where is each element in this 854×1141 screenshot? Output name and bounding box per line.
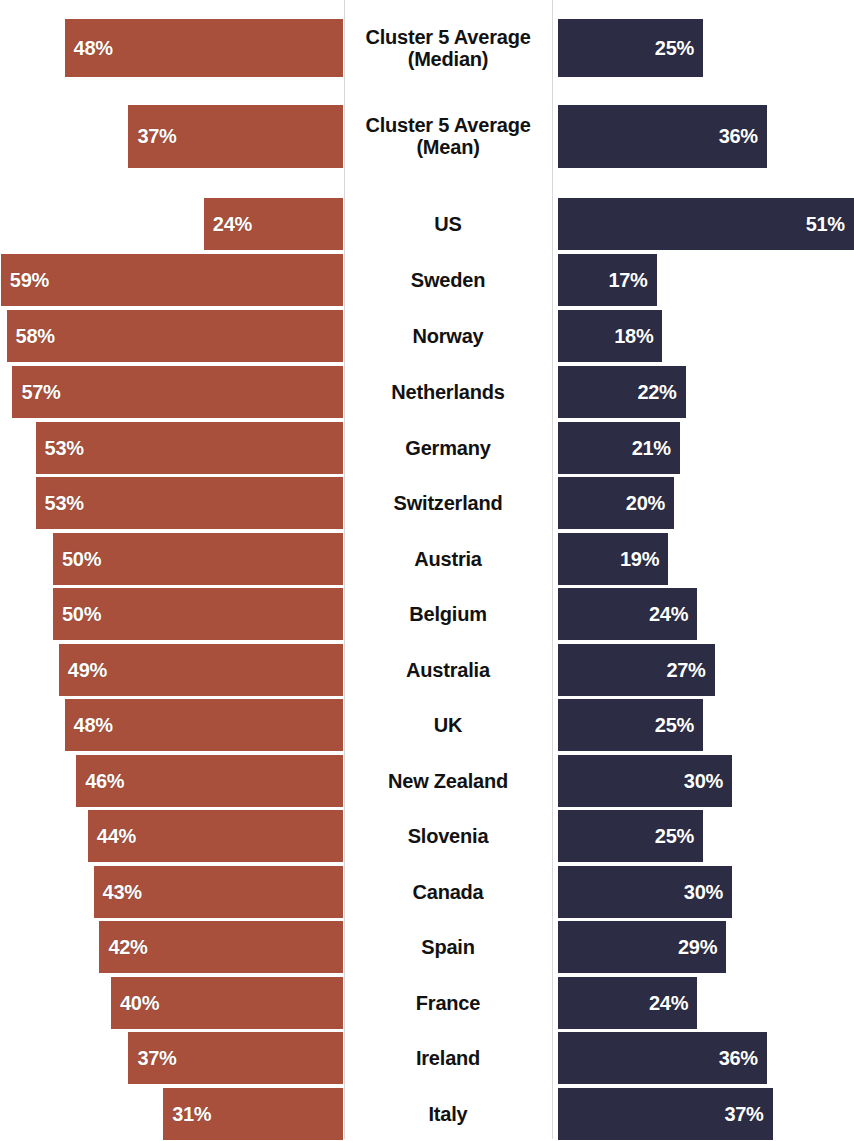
left-bar: 37% [128,105,343,168]
right-bar: 30% [558,755,732,807]
chart-row: 59%Sweden17% [0,252,851,307]
left-bar: 48% [65,699,343,751]
chart-row: 58%Norway18% [0,308,851,363]
right-bar: 18% [558,310,662,362]
right-bar-value: 17% [608,268,647,291]
left-bar-value: 48% [74,713,113,736]
category-label: Slovenia [345,824,551,846]
right-bar: 27% [558,644,715,696]
left-bar: 40% [111,977,343,1029]
left-bar-value: 37% [137,1046,176,1069]
category-label: US [345,212,551,234]
left-bar-value: 40% [120,991,159,1014]
right-bar: 25% [558,699,703,751]
left-bar: 44% [88,810,343,862]
category-label: Austria [345,547,551,569]
left-bar: 48% [65,19,343,77]
right-bar: 29% [558,921,726,973]
right-bar: 24% [558,977,697,1029]
chart-row: 40%France24% [0,975,851,1030]
right-bar-value: 24% [649,602,688,625]
right-bar: 19% [558,533,668,585]
category-label: Sweden [345,268,551,290]
chart-row: 46%New Zealand30% [0,753,851,808]
left-bar-value: 42% [108,935,147,958]
left-bar: 31% [163,1088,343,1140]
left-bar: 46% [76,755,343,807]
right-bar: 25% [558,19,703,77]
left-bar-value: 46% [85,769,124,792]
right-bar: 37% [558,1088,773,1140]
right-bar: 36% [558,105,767,168]
left-bar-value: 58% [16,324,55,347]
left-bar-value: 53% [45,491,84,514]
chart-row: 24%US51% [0,196,851,251]
right-bar: 25% [558,810,703,862]
right-bar-value: 36% [719,1046,758,1069]
right-bar: 30% [558,866,732,918]
chart-row: 53%Switzerland20% [0,475,851,530]
right-bar-value: 18% [614,324,653,347]
category-label: Switzerland [345,491,551,513]
right-bar-value: 25% [655,713,694,736]
right-bar-value: 30% [684,769,723,792]
left-bar-value: 31% [172,1102,211,1125]
category-label: Spain [345,935,551,957]
left-bar-value: 48% [74,37,113,60]
chart-row: 37%Cluster 5 Average (Mean)36% [0,96,851,176]
left-bar-value: 50% [62,602,101,625]
category-label: Norway [345,324,551,346]
chart-row: 53%Germany21% [0,420,851,475]
right-bar: 24% [558,588,697,640]
category-label: France [345,991,551,1013]
left-bar-value: 50% [62,547,101,570]
right-bar: 21% [558,422,680,474]
left-bar-value: 44% [97,824,136,847]
right-bar-value: 22% [637,380,676,403]
category-label: Cluster 5 Average (Mean) [345,114,551,159]
left-bar: 49% [59,644,343,696]
left-bar: 42% [99,921,343,973]
right-bar-value: 25% [655,824,694,847]
chart-row: 50%Austria19% [0,531,851,586]
left-bar-value: 49% [68,658,107,681]
left-bar: 57% [12,366,343,418]
chart-row: 43%Canada30% [0,864,851,919]
category-label: Netherlands [345,380,551,402]
right-bar-value: 27% [666,658,705,681]
right-bar-value: 19% [620,547,659,570]
left-bar-value: 43% [103,880,142,903]
left-bar: 24% [204,198,343,250]
chart-row: 48%Cluster 5 Average (Median)25% [0,8,851,88]
left-bar: 58% [7,310,343,362]
right-bar-value: 29% [678,935,717,958]
right-bar: 17% [558,254,657,306]
left-bar: 37% [128,1032,343,1084]
right-bar: 51% [558,198,854,250]
right-bar-value: 24% [649,991,688,1014]
left-bar: 53% [36,477,343,529]
right-bar-value: 37% [724,1102,763,1125]
chart-row: 42%Spain29% [0,919,851,974]
right-bar-value: 36% [719,125,758,148]
chart-row: 44%Slovenia25% [0,808,851,863]
left-bar-value: 37% [137,125,176,148]
right-bar-value: 21% [632,436,671,459]
category-label: UK [345,713,551,735]
right-bar-value: 20% [626,491,665,514]
chart-row: 49%Australia27% [0,642,851,697]
category-label: Ireland [345,1046,551,1068]
right-bar-value: 25% [655,37,694,60]
category-label: Belgium [345,602,551,624]
left-bar: 50% [53,533,343,585]
category-label: Australia [345,658,551,680]
left-bar-value: 53% [45,436,84,459]
category-label: New Zealand [345,769,551,791]
right-bar: 36% [558,1032,767,1084]
right-bar: 22% [558,366,686,418]
left-bar: 50% [53,588,343,640]
category-label: Cluster 5 Average (Median) [345,26,551,71]
category-label: Canada [345,880,551,902]
right-bar-value: 51% [806,212,845,235]
